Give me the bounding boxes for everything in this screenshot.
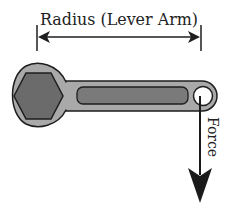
wrench <box>13 63 218 126</box>
torque-diagram: Radius (Lever Arm) Force <box>0 0 229 211</box>
handle-slot <box>77 87 188 104</box>
end-hole <box>194 87 213 106</box>
radius-dimension: Radius (Lever Arm) <box>37 9 201 51</box>
radius-label: Radius (Lever Arm) <box>40 9 198 29</box>
force-arrow: Force <box>188 96 222 203</box>
force-label: Force <box>204 117 222 157</box>
